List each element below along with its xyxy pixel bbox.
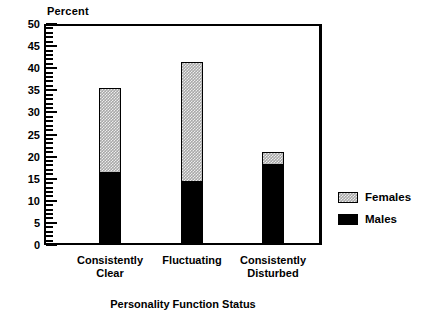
y-tick-minor: [46, 120, 53, 122]
y-tick-minor: [46, 217, 53, 219]
bar-segment-females: [182, 63, 202, 181]
y-tick-label: 15: [14, 174, 40, 184]
y-tick-minor: [46, 32, 53, 34]
y-tick-minor: [46, 76, 53, 78]
y-axis-tick-labels: 05101520253035404550: [10, 0, 40, 322]
x-category-label: Consistently Disturbed: [218, 254, 328, 280]
x-axis-title: Personality Function Status: [44, 298, 322, 310]
y-tick-minor: [46, 94, 53, 96]
y-tick-label: 30: [14, 107, 40, 117]
y-tick-major: [46, 45, 57, 47]
y-tick-minor: [46, 107, 53, 109]
y-tick-major: [46, 67, 57, 69]
y-tick-minor: [46, 213, 53, 215]
y-tick-major: [46, 89, 57, 91]
y-tick-minor: [46, 27, 53, 29]
y-tick-major: [46, 200, 57, 202]
y-tick-minor: [46, 151, 53, 153]
bar-segment-females: [263, 153, 283, 164]
y-tick-minor: [46, 173, 53, 175]
y-tick-major: [46, 23, 57, 25]
y-tick-minor: [46, 235, 53, 237]
y-tick-minor: [46, 182, 53, 184]
legend-swatch-females-icon: [338, 192, 358, 203]
legend-swatch-males-icon: [338, 214, 358, 225]
y-tick-label: 35: [14, 85, 40, 95]
y-tick-minor: [46, 164, 53, 166]
y-tick-minor: [46, 191, 53, 193]
y-tick-label: 10: [14, 196, 40, 206]
y-tick-minor: [46, 195, 53, 197]
y-tick-label: 20: [14, 152, 40, 162]
y-tick-minor: [46, 125, 53, 127]
y-tick-minor: [46, 138, 53, 140]
y-tick-major: [46, 156, 57, 158]
y-tick-minor: [46, 129, 53, 131]
y-tick-major: [46, 111, 57, 113]
y-tick-minor: [46, 142, 53, 144]
y-tick-minor: [46, 41, 53, 43]
y-tick-major: [46, 244, 57, 246]
y-tick-minor: [46, 63, 53, 65]
y-tick-minor: [46, 116, 53, 118]
bar-segment-males: [100, 172, 120, 244]
y-tick-minor: [46, 240, 53, 242]
bar-chart: Percent 05101520253035404550 Consistentl…: [0, 0, 426, 322]
y-tick-minor: [46, 204, 53, 206]
legend-item-males: Males: [338, 208, 424, 230]
legend-item-females: Females: [338, 186, 424, 208]
y-tick-minor: [46, 169, 53, 171]
y-tick-minor: [46, 209, 53, 211]
bar-3: [262, 152, 284, 245]
y-tick-label: 45: [14, 41, 40, 51]
bar-1: [99, 88, 121, 245]
y-tick-major: [46, 178, 57, 180]
y-tick-minor: [46, 36, 53, 38]
y-tick-label: 5: [14, 218, 40, 228]
bar-2: [181, 62, 203, 245]
y-tick-major: [46, 134, 57, 136]
y-tick-minor: [46, 54, 53, 56]
y-tick-label: 50: [14, 19, 40, 29]
legend: Females Males: [338, 186, 424, 230]
y-tick-minor: [46, 147, 53, 149]
y-tick-minor: [46, 50, 53, 52]
y-tick-minor: [46, 58, 53, 60]
legend-label-males: Males: [365, 213, 397, 225]
y-tick-minor: [46, 226, 53, 228]
y-tick-label: 0: [14, 240, 40, 250]
y-tick-minor: [46, 187, 53, 189]
y-tick-minor: [46, 231, 53, 233]
y-tick-minor: [46, 80, 53, 82]
y-tick-minor: [46, 72, 53, 74]
bar-segment-males: [263, 164, 283, 244]
bar-segment-females: [100, 89, 120, 172]
y-tick-minor: [46, 85, 53, 87]
bar-segment-males: [182, 181, 202, 244]
y-tick-minor: [46, 103, 53, 105]
y-tick-label: 40: [14, 63, 40, 73]
y-tick-minor: [46, 160, 53, 162]
y-tick-minor: [46, 98, 53, 100]
legend-label-females: Females: [365, 191, 411, 203]
y-tick-major: [46, 222, 57, 224]
y-tick-label: 25: [14, 130, 40, 140]
